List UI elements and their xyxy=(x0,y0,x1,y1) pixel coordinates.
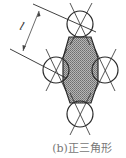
dimension-line-upper xyxy=(33,4,96,32)
figure-caption: (b)正三角形 xyxy=(0,139,126,155)
dimension-arrow xyxy=(23,11,39,51)
arrowhead-bottom xyxy=(23,45,27,51)
diagram-canvas xyxy=(0,0,126,158)
